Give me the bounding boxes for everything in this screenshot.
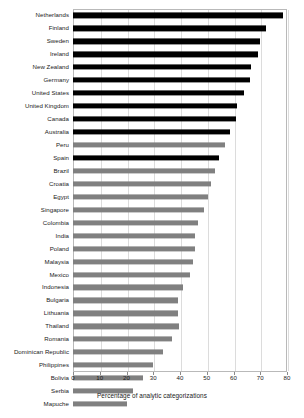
bar-row: Ireland xyxy=(0,48,304,61)
bar-track xyxy=(73,74,287,87)
x-tick-label: 70 xyxy=(257,375,264,381)
category-label: Peru xyxy=(3,142,69,148)
bar xyxy=(73,104,237,109)
bar xyxy=(73,272,190,277)
bar xyxy=(73,233,195,238)
bar xyxy=(73,129,230,134)
bar-track xyxy=(73,35,287,48)
bar xyxy=(73,246,195,251)
category-label: Finland xyxy=(3,25,69,31)
bar-track xyxy=(73,151,287,164)
bar-row: Poland xyxy=(0,242,304,255)
bar-track xyxy=(73,87,287,100)
bar xyxy=(73,401,127,406)
x-axis-label: Percentage of analytic categorizations xyxy=(0,392,304,399)
bar-track xyxy=(73,203,287,216)
category-label: Ireland xyxy=(3,51,69,57)
x-tick-label: 60 xyxy=(230,375,237,381)
bar-track xyxy=(73,177,287,190)
bar xyxy=(73,155,219,160)
bar-row: Peru xyxy=(0,139,304,152)
bar xyxy=(73,142,225,147)
bar xyxy=(73,350,163,355)
category-label: Thailand xyxy=(3,323,69,329)
bar-track xyxy=(73,359,287,372)
bar-track xyxy=(73,229,287,242)
bar xyxy=(73,13,283,18)
bar-row: Lithuania xyxy=(0,307,304,320)
x-axis: 01020304050607080 xyxy=(73,372,287,392)
category-label: Netherlands xyxy=(3,12,69,18)
bar xyxy=(73,65,251,70)
x-tick-label: 40 xyxy=(177,375,184,381)
bar-track xyxy=(73,268,287,281)
bar xyxy=(73,39,260,44)
bar-row: Romania xyxy=(0,333,304,346)
category-label: Bolivia xyxy=(3,375,69,381)
category-label: India xyxy=(3,233,69,239)
bar-row: Canada xyxy=(0,113,304,126)
bar-row: Sweden xyxy=(0,35,304,48)
bar xyxy=(73,337,172,342)
bar-track xyxy=(73,320,287,333)
bar-row: Colombia xyxy=(0,216,304,229)
bar xyxy=(73,91,244,96)
bar-row: Indonesia xyxy=(0,281,304,294)
bar-track xyxy=(73,281,287,294)
bar-track xyxy=(73,216,287,229)
category-label: Philippines xyxy=(3,362,69,368)
bar-track xyxy=(73,294,287,307)
bar-track xyxy=(73,61,287,74)
bar-row: Thailand xyxy=(0,320,304,333)
bar xyxy=(73,194,208,199)
category-label: Egypt xyxy=(3,194,69,200)
bar-row: Croatia xyxy=(0,177,304,190)
bar-row: Mexico xyxy=(0,268,304,281)
bar-row: Brazil xyxy=(0,164,304,177)
x-tick-label: 30 xyxy=(150,375,157,381)
bar-row: Spain xyxy=(0,151,304,164)
x-tick-label: 50 xyxy=(203,375,210,381)
x-tick-label: 20 xyxy=(123,375,130,381)
bar-track xyxy=(73,100,287,113)
x-tick-label: 0 xyxy=(71,375,74,381)
bar-row: Malaysia xyxy=(0,255,304,268)
category-label: Croatia xyxy=(3,181,69,187)
bar xyxy=(73,78,250,83)
bar xyxy=(73,220,198,225)
bar xyxy=(73,181,211,186)
bar-track xyxy=(73,22,287,35)
bar-track xyxy=(73,398,287,411)
category-label: Canada xyxy=(3,116,69,122)
bar-row: Australia xyxy=(0,126,304,139)
category-label: Brazil xyxy=(3,168,69,174)
category-label: Mexico xyxy=(3,271,69,277)
category-label: Spain xyxy=(3,155,69,161)
category-label: Mapuche xyxy=(3,401,69,407)
bar-track xyxy=(73,242,287,255)
bar xyxy=(73,285,183,290)
bar xyxy=(73,311,178,316)
bar-track xyxy=(73,164,287,177)
bar-track xyxy=(73,255,287,268)
category-label: Singapore xyxy=(3,207,69,213)
category-label: United States xyxy=(3,90,69,96)
bar xyxy=(73,324,179,329)
category-label: Dominican Republic xyxy=(3,349,69,355)
bar xyxy=(73,363,153,368)
category-label: Sweden xyxy=(3,38,69,44)
bar xyxy=(73,52,258,57)
category-label: Romania xyxy=(3,336,69,342)
category-label: Poland xyxy=(3,246,69,252)
bar-row: Bulgaria xyxy=(0,294,304,307)
bar xyxy=(73,298,178,303)
bar-track xyxy=(73,139,287,152)
bar-row: Philippines xyxy=(0,359,304,372)
bar-row: New Zealand xyxy=(0,61,304,74)
bar-rows: NetherlandsFinlandSwedenIrelandNew Zeala… xyxy=(0,9,304,372)
bar-track xyxy=(73,113,287,126)
bar xyxy=(73,259,193,264)
category-label: Australia xyxy=(3,129,69,135)
category-label: Bulgaria xyxy=(3,297,69,303)
x-tick-label: 10 xyxy=(96,375,103,381)
